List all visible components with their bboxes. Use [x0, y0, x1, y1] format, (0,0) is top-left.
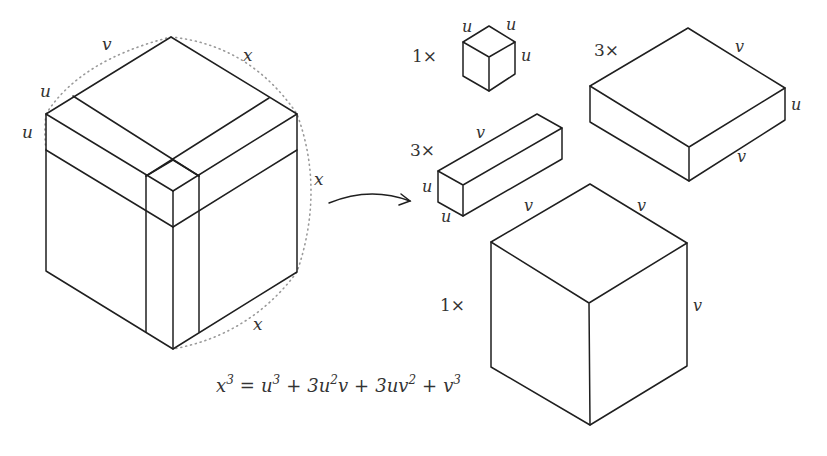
rod-inner [438, 128, 562, 216]
equation-text: x3=u3+3u2v+3uv2+v3 [216, 373, 461, 396]
multiplier-slab: 3× [594, 40, 619, 60]
u-cube-label-2: u [506, 15, 516, 34]
big-cube: v u u x x x [22, 34, 324, 349]
v-cube-label-top-right: v [637, 196, 646, 215]
arrow-shaft [329, 194, 410, 203]
label-x-right: x [314, 169, 324, 189]
multiplier-u-cube: 1× [412, 46, 437, 66]
front-left-line-lower [46, 150, 173, 227]
front-left-line-upper [46, 114, 173, 191]
slab-label-v-top: v [735, 37, 744, 56]
label-u-left: u [22, 122, 33, 142]
slab-inner [590, 86, 785, 181]
big-cube-outline [46, 37, 297, 349]
dotted-circle-arc [45, 37, 311, 349]
label-x-bottom: x [253, 314, 263, 334]
v-cube-inner [491, 242, 687, 425]
u-cube-label-3: u [521, 46, 531, 65]
label-u-top-left: u [40, 81, 51, 101]
v-cube-label-right: v [693, 296, 702, 315]
corner-cube-top-right [173, 160, 199, 176]
front-right-line-upper [173, 114, 297, 191]
front-right-line-lower [173, 150, 297, 227]
piece-u-cube: 1× u u u [412, 15, 531, 91]
slab-label-u: u [791, 95, 801, 114]
multiplier-rod: 3× [410, 140, 435, 160]
transform-arrow [329, 194, 410, 205]
diagram-canvas: v u u x x x 1× u u u 3× v u u 3× v u v [0, 0, 827, 456]
piece-v-cube: 1× v v v [440, 184, 702, 425]
u-cube-label-1: u [462, 17, 472, 36]
equation: x3=u3+3u2v+3uv2+v3 [216, 373, 461, 396]
corner-cube-top-left [146, 160, 173, 176]
rod-outline [438, 114, 562, 216]
u-cube-inner [463, 42, 515, 91]
label-x-top-right: x [243, 45, 253, 65]
label-v-top-left: v [102, 34, 112, 54]
piece-uv2-slab: 3× v u v [590, 28, 801, 181]
rod-label-u-left: u [422, 177, 432, 196]
slab-label-v-bottom: v [737, 147, 746, 166]
multiplier-v-cube: 1× [440, 295, 465, 315]
v-cube-label-top-left: v [524, 196, 533, 215]
piece-u2v-rod: 3× v u u [410, 114, 562, 226]
rod-label-v: v [476, 123, 485, 142]
rod-label-u-bottom: u [441, 207, 451, 226]
